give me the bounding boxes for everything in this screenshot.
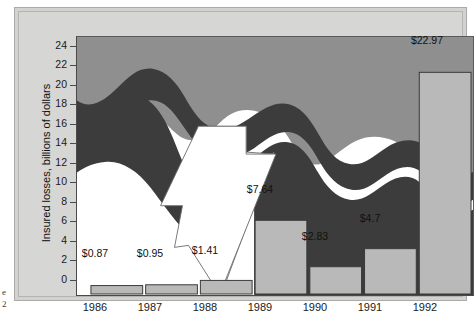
chart-figure: Insured losses, billions of dollars 24 2… (0, 0, 475, 322)
bar-1987[interactable] (146, 285, 198, 294)
x-tick-label-1990: 1990 (289, 301, 341, 313)
bar-1988[interactable] (200, 280, 252, 294)
x-tick-label-1987: 1987 (124, 301, 176, 313)
x-axis-line (76, 295, 474, 296)
x-tick-label-1988: 1988 (179, 301, 231, 313)
figure-inner-frame: Insured losses, billions of dollars 24 2… (18, 11, 463, 297)
bar-value-1990: $2.83 (289, 230, 341, 242)
bar-value-1991: $4.7 (344, 212, 396, 224)
bar-1991[interactable] (365, 249, 417, 294)
x-tick-label-1986: 1986 (69, 301, 121, 313)
x-tick-label-1992: 1992 (399, 301, 451, 313)
bar-1986[interactable] (91, 286, 143, 294)
page-edge-mark-upper: e (2, 288, 6, 297)
bar-value-1987: $0.95 (124, 247, 176, 259)
bar-value-1986: $0.87 (69, 247, 121, 259)
page-edge-mark-lower: 2 (2, 300, 7, 309)
bar-value-1988: $1.41 (179, 244, 231, 256)
bar-value-1989: $7.64 (234, 183, 286, 195)
bar-value-1992: $22.97 (399, 34, 455, 46)
bar-1990[interactable] (310, 267, 362, 294)
x-tick-label-1991: 1991 (344, 301, 396, 313)
bar-1992[interactable] (419, 72, 471, 294)
x-tick-label-1989: 1989 (234, 301, 286, 313)
